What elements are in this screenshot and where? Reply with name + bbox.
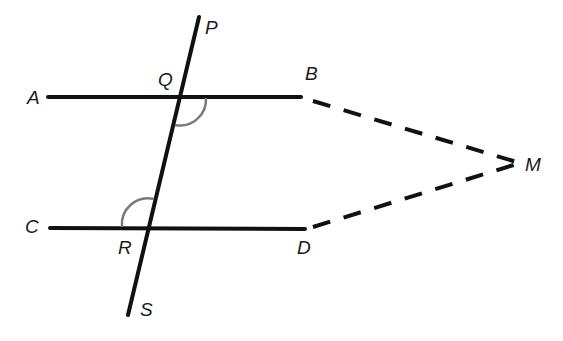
- transversal-ps: [128, 17, 199, 315]
- geometry-diagram: [0, 0, 563, 341]
- label-r: R: [118, 238, 132, 257]
- dashed-bm: [313, 101, 520, 163]
- label-s: S: [140, 300, 153, 319]
- dashed-dm: [313, 163, 520, 227]
- label-p: P: [205, 18, 218, 37]
- label-a: A: [27, 88, 40, 107]
- label-b: B: [305, 64, 318, 83]
- line-cd: [50, 228, 305, 229]
- label-q: Q: [158, 70, 173, 89]
- label-c: C: [25, 217, 39, 236]
- label-d: D: [297, 238, 311, 257]
- label-m: M: [525, 155, 541, 174]
